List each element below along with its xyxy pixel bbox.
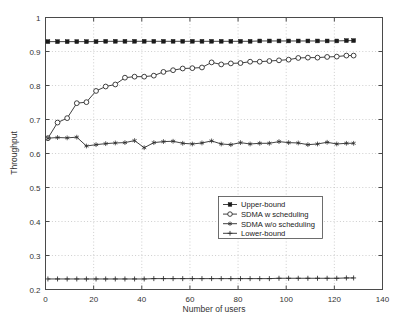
marker-open-circle-icon — [200, 65, 205, 70]
marker-open-circle-icon — [113, 82, 118, 87]
marker-filled-square-icon — [352, 39, 356, 43]
y-tick-label: 0.7 — [29, 116, 41, 125]
y-tick-label: 0.4 — [29, 218, 41, 227]
marker-open-circle-icon — [325, 55, 330, 60]
x-tick-label: 80 — [234, 295, 243, 304]
marker-open-circle-icon — [123, 75, 128, 80]
marker-open-circle-icon — [344, 53, 349, 58]
x-tick-label: 60 — [185, 295, 194, 304]
marker-filled-square-icon — [190, 39, 194, 43]
marker-filled-square-icon — [325, 39, 329, 43]
marker-open-circle-icon — [305, 55, 310, 60]
y-tick-label: 1 — [36, 14, 41, 23]
y-axis-title: Throughput — [9, 131, 19, 175]
marker-filled-square-icon — [277, 39, 281, 43]
legend-item-label: SDMA w scheduling — [241, 210, 309, 219]
marker-filled-square-icon — [65, 40, 69, 44]
x-tick-label: 40 — [137, 295, 146, 304]
marker-open-circle-icon — [334, 54, 339, 59]
x-tick-label: 120 — [328, 295, 342, 304]
marker-filled-square-icon — [200, 39, 204, 43]
marker-filled-square-icon — [219, 39, 223, 43]
y-tick-label: 0.6 — [29, 150, 41, 159]
marker-open-circle-icon — [180, 66, 185, 71]
marker-filled-square-icon — [171, 39, 175, 43]
marker-open-circle-icon — [74, 101, 79, 106]
y-tick-label: 0.9 — [29, 48, 41, 57]
marker-filled-square-icon — [162, 39, 166, 43]
chart-legend[interactable]: Upper-boundSDMA w schedulingSDMA w/o sch… — [219, 197, 323, 239]
marker-filled-square-icon — [210, 39, 214, 43]
marker-open-circle-icon — [103, 84, 108, 89]
marker-filled-square-icon — [181, 39, 185, 43]
marker-filled-square-icon — [75, 40, 79, 44]
marker-open-circle-icon — [296, 56, 301, 61]
marker-filled-square-icon — [229, 39, 233, 43]
marker-open-circle-icon — [238, 61, 243, 66]
marker-open-circle-icon — [286, 57, 291, 62]
legend-item-label: Lower-bound — [241, 229, 285, 238]
x-tick-label: 0 — [43, 295, 48, 304]
marker-filled-square-icon — [228, 203, 232, 207]
marker-open-circle-icon — [351, 53, 356, 58]
x-axis-title: Number of users — [183, 304, 246, 314]
marker-filled-square-icon — [258, 39, 262, 43]
marker-open-circle-icon — [65, 116, 70, 121]
marker-filled-square-icon — [46, 40, 50, 44]
marker-filled-square-icon — [287, 39, 291, 43]
marker-open-circle-icon — [132, 74, 137, 79]
marker-open-circle-icon — [267, 59, 272, 64]
y-tick-label: 0.5 — [29, 184, 41, 193]
marker-filled-square-icon — [94, 40, 98, 44]
marker-open-circle-icon — [315, 55, 320, 60]
marker-open-circle-icon — [94, 89, 99, 94]
marker-open-circle-icon — [161, 70, 166, 75]
marker-filled-square-icon — [248, 39, 252, 43]
marker-filled-square-icon — [267, 39, 271, 43]
y-tick-label: 0.8 — [29, 82, 41, 91]
marker-filled-square-icon — [85, 40, 89, 44]
legend-item-label: SDMA w/o scheduling — [241, 220, 315, 229]
marker-filled-square-icon — [104, 39, 108, 43]
marker-filled-square-icon — [306, 39, 310, 43]
marker-open-circle-icon — [219, 62, 224, 67]
y-axis-tick-labels: 0.20.30.40.50.60.70.80.91 — [29, 14, 41, 295]
marker-filled-square-icon — [56, 40, 60, 44]
legend-item-label: Upper-bound — [241, 200, 285, 209]
x-tick-label: 140 — [376, 295, 390, 304]
marker-open-circle-icon — [228, 61, 233, 66]
chart-background — [0, 0, 407, 325]
marker-filled-square-icon — [316, 39, 320, 43]
marker-filled-square-icon — [113, 39, 117, 43]
marker-filled-square-icon — [239, 39, 243, 43]
marker-open-circle-icon — [171, 68, 176, 73]
marker-open-circle-icon — [228, 212, 233, 217]
x-tick-label: 20 — [89, 295, 98, 304]
y-tick-label: 0.3 — [29, 252, 41, 261]
marker-filled-square-icon — [296, 39, 300, 43]
throughput-line-chart: 0.20.30.40.50.60.70.80.91 02040608010012… — [0, 0, 407, 325]
marker-open-circle-icon — [142, 74, 147, 79]
marker-open-circle-icon — [84, 100, 89, 105]
marker-open-circle-icon — [257, 59, 262, 64]
marker-open-circle-icon — [190, 66, 195, 71]
marker-filled-square-icon — [335, 39, 339, 43]
marker-open-circle-icon — [209, 60, 214, 65]
marker-filled-square-icon — [133, 39, 137, 43]
marker-filled-square-icon — [344, 39, 348, 43]
marker-filled-square-icon — [142, 39, 146, 43]
x-tick-label: 100 — [280, 295, 294, 304]
marker-open-circle-icon — [151, 73, 156, 78]
marker-open-circle-icon — [277, 58, 282, 63]
marker-filled-square-icon — [123, 39, 127, 43]
figure-container: 0.20.30.40.50.60.70.80.91 02040608010012… — [0, 0, 407, 325]
marker-filled-square-icon — [152, 39, 156, 43]
marker-open-circle-icon — [55, 120, 60, 125]
y-tick-label: 0.2 — [29, 286, 41, 295]
marker-open-circle-icon — [248, 59, 253, 64]
